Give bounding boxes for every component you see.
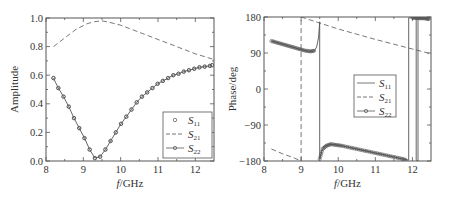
x-tick-label: 12 (190, 164, 201, 175)
x-tick-label: 9 (298, 164, 303, 175)
x-tick-label: 12 (407, 164, 418, 175)
series-s21 (271, 17, 431, 161)
y-tick-label: −90 (245, 120, 261, 131)
axes-frame (264, 17, 431, 161)
legend: S11S21S22 (163, 112, 212, 158)
y-tick-label: 90 (251, 48, 262, 59)
y-tick-label: 0 (256, 84, 261, 95)
x-axis-label: f/GHz (334, 177, 361, 189)
y-tick-label: −180 (239, 156, 261, 167)
y-tick-label: 0.2 (30, 127, 43, 138)
y-tick-label: 0.4 (30, 98, 44, 109)
x-tick-label: 8 (261, 164, 266, 175)
series-s11 (271, 17, 429, 161)
y-tick-label: 180 (245, 12, 261, 23)
amplitude-chart: 891011120.00.20.40.60.81.0f/GHzAmplitude… (8, 13, 214, 190)
x-tick-label: 9 (81, 164, 86, 175)
x-axis-label: f/GHz (117, 177, 144, 189)
legend: S11S21S22 (354, 75, 396, 119)
y-tick-label: 0.0 (30, 156, 43, 167)
x-tick-label: 10 (115, 164, 126, 175)
y-axis-label: Phase/deg (226, 66, 238, 111)
series-s22 (270, 16, 430, 161)
y-axis-label: Amplitude (8, 66, 20, 113)
y-tick-label: 0.6 (30, 70, 43, 81)
y-tick-label: 0.8 (30, 41, 43, 52)
series-s21 (54, 21, 215, 60)
phase-chart: 89101112−180−90090180f/GHzPhase/degS11S2… (226, 12, 431, 190)
y-tick-label: 1.0 (30, 13, 43, 24)
figure: 891011120.00.20.40.60.81.0f/GHzAmplitude… (0, 0, 449, 207)
x-tick-label: 11 (153, 164, 163, 175)
plot-area (270, 16, 431, 161)
x-tick-label: 8 (43, 164, 48, 175)
x-tick-label: 10 (333, 164, 344, 175)
x-tick-label: 11 (370, 164, 380, 175)
